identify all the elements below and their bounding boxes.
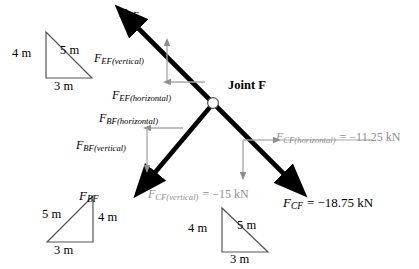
triangle-ef-hypotenuse-dim: 5 m — [60, 44, 79, 57]
triangle-cf-vertical-dim: 4 m — [188, 222, 207, 235]
triangle-bf-vertical-dim: 4 m — [98, 211, 117, 224]
label-force-ef-horizontal: FEF(horizontal) — [112, 89, 171, 101]
triangle-cf-hypotenuse-dim: 5 m — [237, 219, 256, 232]
label-force-ef-vertical: FEF(vertical) — [94, 52, 144, 64]
label-force-ef: FEF — [119, 6, 138, 19]
label-force-cf-vertical: FCF(vertical)= −15 kN — [148, 188, 249, 200]
figure-canvas: FEF FEF(vertical) FEF(horizontal) Joint … — [0, 0, 419, 269]
label-force-cf: FCF= −18.75 kN — [283, 196, 373, 209]
joint-label: Joint F — [228, 79, 266, 92]
label-force-bf-vertical: FBF(vertical) — [76, 139, 126, 151]
triangle-bf-base-dim: 3 m — [54, 244, 73, 257]
label-force-cf-horizontal: FCF(horizontal)= −11.25 kN — [276, 131, 400, 143]
joint-marker — [208, 98, 219, 109]
label-force-bf: FBF — [79, 189, 98, 202]
triangle-ef-base-dim: 3 m — [54, 80, 73, 93]
force-arrow-bf — [152, 106, 211, 176]
label-force-bf-horizontal: FBF(horizontal) — [99, 112, 158, 124]
triangle-ef-vertical-dim: 4 m — [12, 47, 31, 60]
triangle-bf-hypotenuse-dim: 5 m — [42, 208, 61, 221]
triangle-cf-base-dim: 3 m — [230, 253, 249, 266]
